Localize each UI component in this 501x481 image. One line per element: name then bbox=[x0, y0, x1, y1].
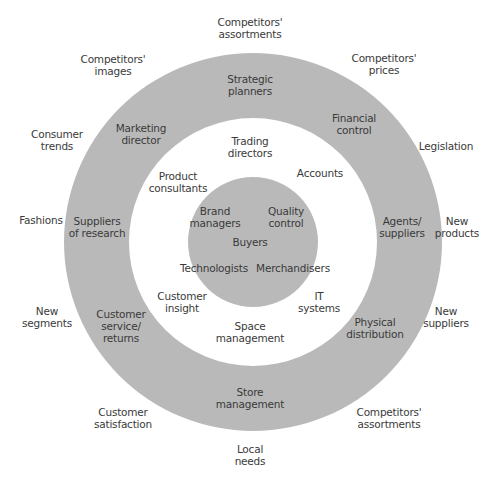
label-legislation: Legislation bbox=[419, 140, 473, 152]
label-customer-satisfaction: Customer satisfaction bbox=[94, 406, 152, 430]
label-brand-managers: Brand managers bbox=[189, 205, 240, 229]
label-trading-directors: Trading directors bbox=[228, 135, 272, 159]
label-competitors-assortments-bottom: Competitors' assortments bbox=[357, 406, 422, 430]
label-competitors-prices: Competitors' prices bbox=[352, 52, 417, 76]
label-fashions: Fashions bbox=[19, 214, 63, 226]
label-customer-insight: Customer insight bbox=[157, 290, 206, 314]
label-strategic-planners: Strategic planners bbox=[227, 73, 273, 97]
label-physical-distribution: Physical distribution bbox=[346, 316, 403, 340]
label-technologists: Technologists bbox=[180, 262, 248, 274]
label-customer-service-returns: Customer service/ returns bbox=[96, 308, 145, 344]
label-store-management: Store management bbox=[216, 386, 284, 410]
label-consumer-trends: Consumer trends bbox=[31, 128, 83, 152]
label-new-suppliers: New suppliers bbox=[423, 305, 469, 329]
label-marketing-director: Marketing director bbox=[116, 122, 167, 146]
label-it-systems: IT systems bbox=[298, 290, 340, 314]
label-competitors-assortments-top: Competitors' assortments bbox=[218, 16, 283, 40]
label-suppliers-of-research: Suppliers of research bbox=[69, 215, 126, 239]
label-new-products: New products bbox=[435, 215, 479, 239]
label-space-management: Space management bbox=[216, 320, 284, 344]
label-quality-control: Quality control bbox=[268, 205, 304, 229]
label-buyers: Buyers bbox=[232, 236, 267, 248]
label-local-needs: Local needs bbox=[235, 443, 266, 467]
label-merchandisers: Merchandisers bbox=[256, 262, 330, 274]
concentric-diagram: Brand managersQuality controlBuyersTechn… bbox=[0, 0, 501, 481]
label-agents-suppliers: Agents/ suppliers bbox=[379, 215, 425, 239]
label-accounts: Accounts bbox=[297, 167, 343, 179]
label-product-consultants: Product consultants bbox=[149, 170, 208, 194]
label-financial-control: Financial control bbox=[332, 112, 376, 136]
label-competitors-images: Competitors' images bbox=[81, 53, 146, 77]
label-new-segments: New segments bbox=[22, 305, 72, 329]
